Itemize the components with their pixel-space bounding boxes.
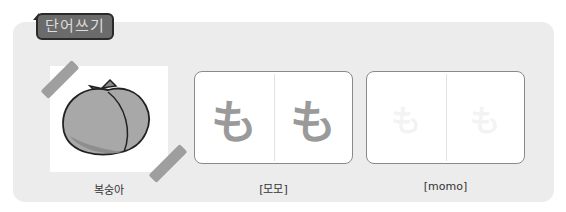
trace-char-2: も <box>274 72 353 163</box>
peach-icon <box>50 66 168 172</box>
trace-card[interactable]: も も <box>194 71 353 164</box>
section-title-badge: 단어쓰기 <box>36 13 114 40</box>
romanization-label: [momo] <box>366 180 525 193</box>
trace-char-1: も <box>195 72 274 163</box>
korean-word-label: 복숭아 <box>50 181 168 197</box>
blank-writing-card[interactable]: も も <box>366 71 525 164</box>
faint-char-1: も <box>367 72 446 163</box>
faint-char-2: も <box>446 72 525 163</box>
picture-frame <box>50 66 168 172</box>
reading-label: [모모] <box>194 180 353 196</box>
